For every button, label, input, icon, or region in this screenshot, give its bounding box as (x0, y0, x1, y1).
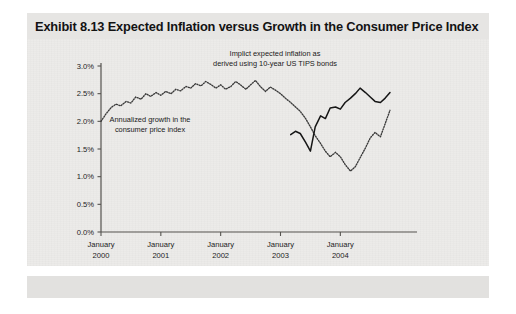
x-axis-tick-group: January2000January2001January2002January… (87, 232, 354, 260)
x-axis-tick-label: 2001 (152, 251, 169, 260)
page-title: Exhibit 8.13 Expected Inflation versus G… (35, 19, 478, 34)
x-axis-tick-label: January (207, 240, 234, 249)
y-axis-tick-label: 1.5% (77, 145, 95, 154)
title-band: Exhibit 8.13 Expected Inflation versus G… (27, 13, 489, 39)
x-axis-tick-label: January (87, 240, 114, 249)
y-axis-tick-label: 1.0% (77, 172, 95, 181)
annotation-cpi-line1: Annualized growth in the (110, 115, 191, 124)
annotation-tips: Implict expected inflation as derived us… (213, 49, 337, 68)
annotation-cpi: Annualized growth in the consumer price … (110, 115, 191, 134)
series-line-tips-expected-inflation (291, 88, 390, 151)
annotation-cpi-line2: consumer price index (115, 125, 186, 134)
y-axis-tick-label: 2.5% (77, 89, 95, 98)
x-axis-tick-label: January (267, 240, 294, 249)
annotation-tips-line2: derived using 10-year US TIPS bonds (213, 59, 337, 68)
y-axis-tick-label: 3.0% (77, 62, 95, 71)
annotation-tips-line1: Implict expected inflation as (230, 49, 321, 58)
x-axis-tick-label: January (327, 240, 354, 249)
x-axis-tick-label: 2002 (212, 251, 229, 260)
y-axis-tick-label: 0.5% (77, 200, 95, 209)
y-axis-tick-group: 0.0%0.5%1.0%1.5%2.0%2.5%3.0% (77, 62, 101, 237)
x-axis-tick-label: 2003 (272, 251, 289, 260)
panel-bottom-band (27, 276, 489, 298)
x-axis-tick-label: 2000 (93, 251, 110, 260)
y-axis-tick-label: 2.0% (77, 117, 95, 126)
x-axis-tick-label: January (147, 240, 174, 249)
y-axis-tick-label: 0.0% (77, 228, 95, 237)
x-axis-tick-label: 2004 (332, 251, 349, 260)
scanned-page: Exhibit 8.13 Expected Inflation versus G… (0, 0, 516, 314)
chart-plot-area: 0.0%0.5%1.0%1.5%2.0%2.5%3.0% January2000… (27, 39, 489, 266)
chart-svg: 0.0%0.5%1.0%1.5%2.0%2.5%3.0% January2000… (27, 39, 489, 266)
